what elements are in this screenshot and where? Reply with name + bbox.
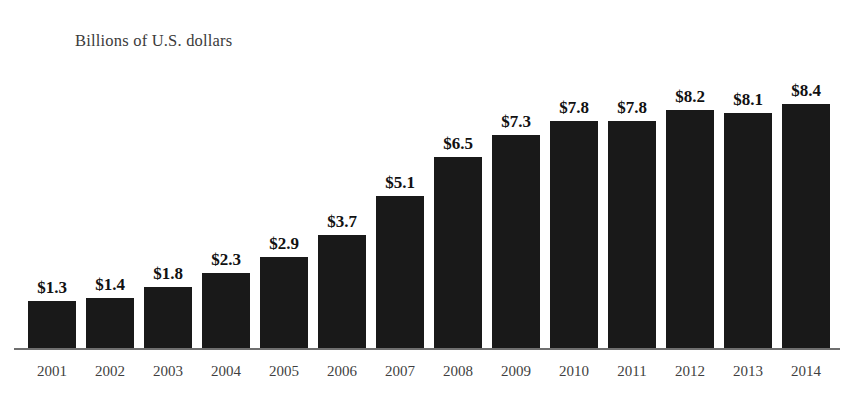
bar: [434, 157, 482, 348]
bar-value-label: $2.3: [196, 250, 256, 270]
bar-group: $7.82010: [550, 0, 598, 394]
bar-value-label: $8.1: [718, 90, 778, 110]
x-axis-label: 2010: [544, 363, 604, 380]
x-axis-label: 2005: [254, 363, 314, 380]
bar-value-label: $8.4: [776, 81, 836, 101]
bar-group: $3.72006: [318, 0, 366, 394]
bar: [318, 235, 366, 348]
bar: [376, 196, 424, 348]
bar-group: $7.32009: [492, 0, 540, 394]
bar-value-label: $1.3: [22, 278, 82, 298]
bar: [724, 113, 772, 348]
bar-value-label: $8.2: [660, 87, 720, 107]
x-axis-label: 2012: [660, 363, 720, 380]
plot-area: $1.32001$1.42002$1.82003$2.32004$2.92005…: [0, 0, 854, 394]
bar-chart: Billions of U.S. dollars $1.32001$1.4200…: [0, 0, 854, 394]
x-axis-label: 2004: [196, 363, 256, 380]
bar-group: $8.12013: [724, 0, 772, 394]
x-axis-label: 2011: [602, 363, 662, 380]
x-axis-label: 2014: [776, 363, 836, 380]
bar: [666, 110, 714, 348]
bar-value-label: $6.5: [428, 134, 488, 154]
bar-group: $1.42002: [86, 0, 134, 394]
bar-value-label: $1.4: [80, 275, 140, 295]
bar-group: $7.82011: [608, 0, 656, 394]
bar-group: $2.92005: [260, 0, 308, 394]
bar: [782, 104, 830, 348]
bar-value-label: $7.8: [544, 98, 604, 118]
x-axis-line: [14, 348, 840, 350]
bar-group: $8.22012: [666, 0, 714, 394]
x-axis-label: 2013: [718, 363, 778, 380]
bar-group: $8.42014: [782, 0, 830, 394]
bar: [608, 121, 656, 348]
bar: [492, 135, 540, 348]
bar-group: $1.82003: [144, 0, 192, 394]
x-axis-label: 2006: [312, 363, 372, 380]
x-axis-label: 2003: [138, 363, 198, 380]
bar-value-label: $7.8: [602, 98, 662, 118]
bar-value-label: $7.3: [486, 112, 546, 132]
bar: [260, 257, 308, 348]
bar: [550, 121, 598, 348]
bar: [144, 287, 192, 348]
bar-group: $5.12007: [376, 0, 424, 394]
x-axis-label: 2002: [80, 363, 140, 380]
bar-group: $1.32001: [28, 0, 76, 394]
x-axis-label: 2007: [370, 363, 430, 380]
bar: [86, 298, 134, 348]
bar-value-label: $3.7: [312, 212, 372, 232]
bar-group: $6.52008: [434, 0, 482, 394]
bar: [202, 273, 250, 348]
x-axis-label: 2009: [486, 363, 546, 380]
x-axis-label: 2001: [22, 363, 82, 380]
bar-value-label: $5.1: [370, 173, 430, 193]
bar-value-label: $1.8: [138, 264, 198, 284]
x-axis-label: 2008: [428, 363, 488, 380]
bar-value-label: $2.9: [254, 234, 314, 254]
bar-group: $2.32004: [202, 0, 250, 394]
bar: [28, 301, 76, 348]
